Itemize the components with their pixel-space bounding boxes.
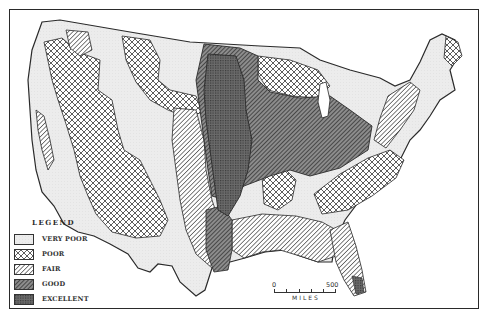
fair-swatch-icon	[14, 264, 34, 275]
legend-item-very-poor: VERY POOR	[14, 232, 124, 246]
scale-end-label: 500	[326, 281, 338, 289]
legend-item-fair: FAIR	[14, 262, 124, 276]
scale-tick	[299, 289, 300, 292]
excellent-swatch-icon	[14, 294, 34, 305]
legend-item-good: GOOD	[14, 277, 124, 291]
legend-label: GOOD	[42, 280, 65, 288]
scale-bar: 0 500 MILES	[272, 281, 342, 303]
legend-label: VERY POOR	[42, 235, 88, 243]
scale-tick	[311, 289, 312, 292]
scale-tick	[335, 289, 336, 292]
poor-swatch-icon	[14, 249, 34, 260]
scale-line	[274, 292, 336, 293]
scale-tick	[323, 289, 324, 292]
scale-start-label: 0	[272, 281, 276, 289]
legend-item-poor: POOR	[14, 247, 124, 261]
very-poor-swatch-icon	[14, 234, 34, 245]
legend-label: POOR	[42, 250, 64, 258]
legend-item-excellent: EXCELLENT	[14, 292, 124, 306]
scale-tick	[286, 289, 287, 292]
good-swatch-icon	[14, 279, 34, 290]
legend: LEGEND VERY POOR POOR FAIR GOOD EXCELLEN…	[14, 218, 124, 307]
legend-title: LEGEND	[32, 218, 124, 227]
scale-unit-label: MILES	[292, 294, 320, 301]
legend-label: FAIR	[42, 265, 61, 273]
scale-tick	[274, 289, 275, 292]
legend-label: EXCELLENT	[42, 295, 89, 303]
